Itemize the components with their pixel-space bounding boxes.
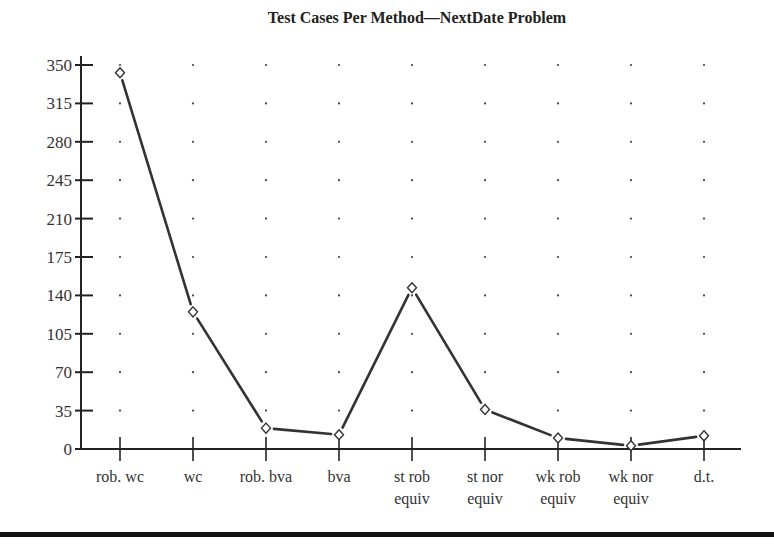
grid-dot <box>265 218 267 220</box>
grid-dot <box>192 294 194 296</box>
y-tick-label: 245 <box>47 171 73 190</box>
grid-dot <box>630 141 632 143</box>
grid-dot <box>265 410 267 412</box>
data-point-diamond <box>116 68 125 78</box>
grid-dot <box>119 64 121 66</box>
grid-dot <box>557 371 559 373</box>
grid-dot <box>119 410 121 412</box>
grid-dot <box>119 179 121 181</box>
x-tick-label: equiv <box>613 490 649 508</box>
grid-dot <box>119 333 121 335</box>
grid-dot <box>557 333 559 335</box>
x-tick-label: equiv <box>540 490 576 508</box>
grid-dot <box>484 64 486 66</box>
grid-dot <box>192 218 194 220</box>
grid-dot <box>192 102 194 104</box>
y-tick-label: 175 <box>47 248 73 267</box>
x-tick-label: equiv <box>394 490 430 508</box>
grid-dot <box>192 64 194 66</box>
grid-dot <box>192 371 194 373</box>
x-tick-label: bva <box>327 468 350 485</box>
data-line-segment <box>492 412 550 435</box>
grid-dot <box>119 256 121 258</box>
grid-dot <box>411 141 413 143</box>
grid-dot <box>265 141 267 143</box>
y-tick-label: 105 <box>47 325 73 344</box>
grid-dot <box>630 333 632 335</box>
grid-dot <box>484 371 486 373</box>
line-chart: 03570105140175210245280315350rob. wcwcro… <box>0 0 774 552</box>
data-point-diamond <box>481 405 490 415</box>
data-line-segment <box>566 439 623 445</box>
grid-dot <box>630 410 632 412</box>
data-line-segment <box>416 295 481 403</box>
grid-dot <box>484 179 486 181</box>
grid-dot <box>703 333 705 335</box>
data-point-diamond <box>408 283 417 293</box>
grid-dot <box>703 410 705 412</box>
grid-dot <box>630 294 632 296</box>
data-point-diamond <box>262 423 271 433</box>
grid-dot <box>411 179 413 181</box>
grid-dot <box>557 218 559 220</box>
grid-dot <box>484 333 486 335</box>
data-point-diamond <box>189 307 198 317</box>
grid-dot <box>338 218 340 220</box>
data-point-diamond <box>335 430 344 440</box>
x-tick-label: st rob <box>394 468 430 485</box>
grid-dot <box>411 333 413 335</box>
grid-dot <box>557 102 559 104</box>
grid-dot <box>703 294 705 296</box>
grid-dot <box>265 294 267 296</box>
y-tick-label: 70 <box>55 363 72 382</box>
grid-dot <box>411 371 413 373</box>
y-tick-label: 280 <box>47 133 73 152</box>
y-tick-label: 210 <box>47 210 73 229</box>
y-tick-label: 350 <box>47 56 73 75</box>
grid-dot <box>557 64 559 66</box>
grid-dot <box>557 294 559 296</box>
data-line-segment <box>197 319 261 422</box>
grid-dot <box>411 294 413 296</box>
y-tick-label: 140 <box>47 286 73 305</box>
grid-dot <box>338 179 340 181</box>
y-tick-label: 315 <box>47 94 73 113</box>
grid-dot <box>192 179 194 181</box>
grid-dot <box>484 256 486 258</box>
grid-dot <box>630 371 632 373</box>
grid-dot <box>338 333 340 335</box>
grid-dot <box>192 256 194 258</box>
grid-dot <box>119 141 121 143</box>
data-line-segment <box>122 80 190 304</box>
grid-dot <box>630 64 632 66</box>
grid-dot <box>484 102 486 104</box>
grid-dot <box>265 179 267 181</box>
grid-dot <box>192 333 194 335</box>
grid-dot <box>703 102 705 104</box>
data-line-segment <box>274 429 331 434</box>
grid-dot <box>703 141 705 143</box>
grid-dot <box>703 179 705 181</box>
x-tick-label: rob. wc <box>96 468 144 485</box>
grid-dot <box>630 102 632 104</box>
grid-dot <box>557 141 559 143</box>
grid-dot <box>338 371 340 373</box>
grid-dot <box>338 256 340 258</box>
grid-dot <box>338 141 340 143</box>
grid-dot <box>192 141 194 143</box>
grid-dot <box>119 102 121 104</box>
grid-dot <box>411 410 413 412</box>
grid-dot <box>411 218 413 220</box>
grid-dot <box>338 410 340 412</box>
grid-dot <box>484 141 486 143</box>
y-tick-label: 0 <box>64 440 73 459</box>
grid-dot <box>703 371 705 373</box>
x-tick-label: d.t. <box>694 468 714 485</box>
grid-dot <box>265 64 267 66</box>
data-line-segment <box>639 437 696 445</box>
grid-dot <box>411 64 413 66</box>
grid-dot <box>630 218 632 220</box>
grid-dot <box>338 102 340 104</box>
grid-dot <box>265 333 267 335</box>
grid-dot <box>630 179 632 181</box>
